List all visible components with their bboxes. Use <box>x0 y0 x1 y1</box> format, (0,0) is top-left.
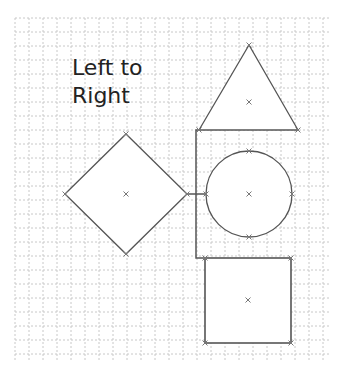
diagram-canvas <box>0 0 346 379</box>
diamond-shape[interactable] <box>63 132 190 257</box>
title-line-2: Right <box>72 82 142 110</box>
connectors <box>187 130 206 258</box>
square-shape[interactable] <box>203 256 294 346</box>
diagram-title[interactable]: Left to Right <box>72 54 142 110</box>
title-line-1: Left to <box>72 54 142 82</box>
connector-diamond-to-triangle-circle-square[interactable] <box>187 130 206 258</box>
